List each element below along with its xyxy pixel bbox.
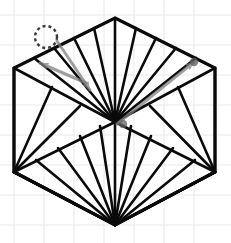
- diagram-canvas: [0, 0, 231, 243]
- endpoint-dot-center: [119, 120, 127, 128]
- hexagon-figure-svg: [0, 0, 231, 243]
- endpoint-dot-upper-right: [190, 58, 198, 66]
